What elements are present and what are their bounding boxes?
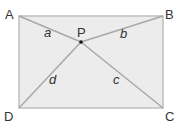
point-label-p: P: [77, 25, 86, 40]
vertex-label-b: B: [165, 7, 174, 22]
point-p-dot: [79, 40, 83, 44]
segment-label-a: a: [44, 25, 51, 40]
segment-label-d: d: [49, 72, 57, 87]
segment-label-b: b: [120, 26, 127, 41]
vertex-label-a: A: [5, 7, 14, 22]
segment-label-c: c: [113, 72, 120, 87]
vertex-label-d: D: [4, 109, 13, 124]
rectangle-abcd: [19, 16, 163, 108]
rectangle-diagram: A B C D P a b c d: [0, 0, 179, 125]
vertex-label-c: C: [165, 109, 174, 124]
